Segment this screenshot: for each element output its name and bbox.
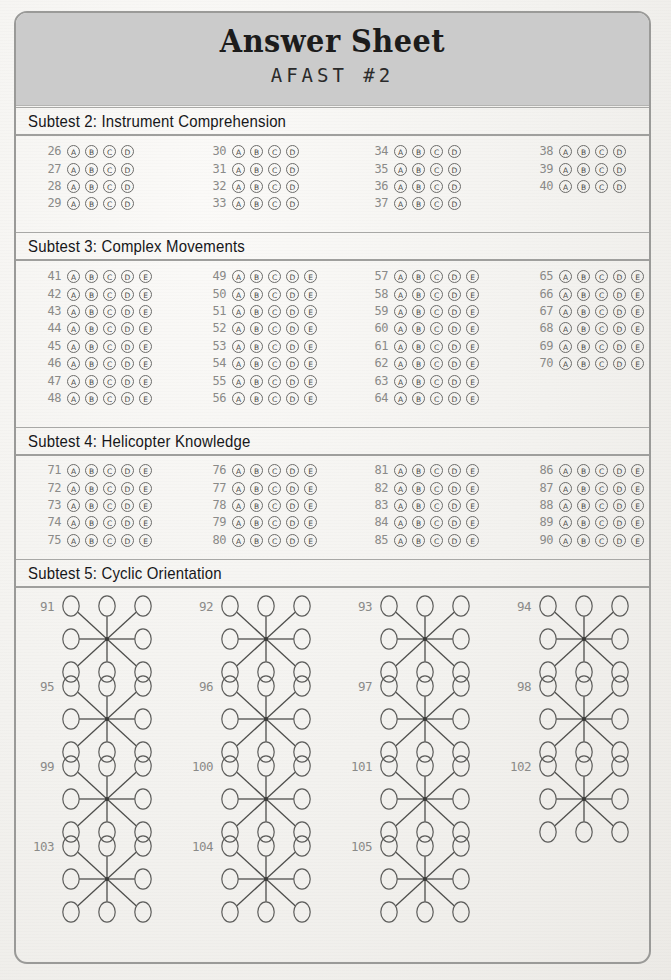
cyclic-bubble-5[interactable] — [294, 869, 310, 889]
answer-bubble-81-C[interactable]: C — [430, 464, 443, 477]
answer-bubble-62-A[interactable]: A — [394, 357, 407, 370]
answer-bubble-26-D[interactable]: D — [121, 145, 134, 158]
cyclic-bubble-1[interactable] — [63, 676, 79, 696]
cyclic-bubble-3[interactable] — [612, 596, 628, 616]
answer-bubble-67-B[interactable]: B — [577, 305, 590, 318]
answer-bubble-41-C[interactable]: C — [103, 270, 116, 283]
answer-bubble-55-A[interactable]: A — [232, 375, 245, 388]
answer-bubble-63-E[interactable]: E — [466, 375, 479, 388]
answer-bubble-83-D[interactable]: D — [448, 499, 461, 512]
cyclic-bubble-4[interactable] — [540, 629, 556, 649]
answer-bubble-65-A[interactable]: A — [559, 270, 572, 283]
answer-bubble-78-D[interactable]: D — [286, 499, 299, 512]
answer-bubble-89-E[interactable]: E — [631, 516, 644, 529]
answer-bubble-80-B[interactable]: B — [250, 534, 263, 547]
cyclic-orientation-diagram[interactable] — [218, 673, 314, 765]
answer-bubble-46-A[interactable]: A — [67, 357, 80, 370]
cyclic-bubble-5[interactable] — [453, 709, 469, 729]
answer-bubble-60-B[interactable]: B — [412, 322, 425, 335]
cyclic-orientation-diagram[interactable] — [218, 753, 314, 845]
answer-bubble-29-B[interactable]: B — [85, 197, 98, 210]
answer-bubble-59-E[interactable]: E — [466, 305, 479, 318]
answer-bubble-74-C[interactable]: C — [103, 516, 116, 529]
answer-bubble-62-B[interactable]: B — [412, 357, 425, 370]
answer-bubble-30-B[interactable]: B — [250, 145, 263, 158]
answer-bubble-48-D[interactable]: D — [121, 392, 134, 405]
answer-bubble-48-A[interactable]: A — [67, 392, 80, 405]
answer-bubble-80-A[interactable]: A — [232, 534, 245, 547]
answer-bubble-80-C[interactable]: C — [268, 534, 281, 547]
cyclic-orientation-diagram[interactable] — [536, 593, 632, 685]
answer-bubble-45-B[interactable]: B — [85, 340, 98, 353]
answer-bubble-68-C[interactable]: C — [595, 322, 608, 335]
answer-bubble-67-C[interactable]: C — [595, 305, 608, 318]
cyclic-orientation-diagram[interactable] — [377, 593, 473, 685]
cyclic-bubble-2[interactable] — [99, 676, 115, 696]
answer-bubble-88-A[interactable]: A — [559, 499, 572, 512]
answer-bubble-90-D[interactable]: D — [613, 534, 626, 547]
cyclic-bubble-7[interactable] — [417, 902, 433, 922]
answer-bubble-88-D[interactable]: D — [613, 499, 626, 512]
answer-bubble-47-E[interactable]: E — [139, 375, 152, 388]
answer-bubble-59-C[interactable]: C — [430, 305, 443, 318]
answer-bubble-77-A[interactable]: A — [232, 482, 245, 495]
answer-bubble-45-A[interactable]: A — [67, 340, 80, 353]
answer-bubble-46-E[interactable]: E — [139, 357, 152, 370]
answer-bubble-86-D[interactable]: D — [613, 464, 626, 477]
answer-bubble-83-A[interactable]: A — [394, 499, 407, 512]
answer-bubble-55-C[interactable]: C — [268, 375, 281, 388]
answer-bubble-30-D[interactable]: D — [286, 145, 299, 158]
answer-bubble-61-C[interactable]: C — [430, 340, 443, 353]
answer-bubble-40-A[interactable]: A — [559, 180, 572, 193]
answer-bubble-29-C[interactable]: C — [103, 197, 116, 210]
cyclic-bubble-4[interactable] — [63, 789, 79, 809]
answer-bubble-26-C[interactable]: C — [103, 145, 116, 158]
answer-bubble-28-A[interactable]: A — [67, 180, 80, 193]
answer-bubble-51-B[interactable]: B — [250, 305, 263, 318]
answer-bubble-77-E[interactable]: E — [304, 482, 317, 495]
cyclic-bubble-2[interactable] — [99, 836, 115, 856]
answer-bubble-38-D[interactable]: D — [613, 145, 626, 158]
answer-bubble-74-D[interactable]: D — [121, 516, 134, 529]
cyclic-orientation-diagram[interactable] — [218, 593, 314, 685]
answer-bubble-34-A[interactable]: A — [394, 145, 407, 158]
answer-bubble-79-A[interactable]: A — [232, 516, 245, 529]
answer-bubble-44-E[interactable]: E — [139, 322, 152, 335]
cyclic-bubble-4[interactable] — [540, 789, 556, 809]
answer-bubble-37-D[interactable]: D — [448, 197, 461, 210]
answer-bubble-40-C[interactable]: C — [595, 180, 608, 193]
answer-bubble-55-B[interactable]: B — [250, 375, 263, 388]
answer-bubble-37-C[interactable]: C — [430, 197, 443, 210]
answer-bubble-35-C[interactable]: C — [430, 163, 443, 176]
cyclic-bubble-1[interactable] — [222, 596, 238, 616]
answer-bubble-69-C[interactable]: C — [595, 340, 608, 353]
cyclic-bubble-6[interactable] — [540, 822, 556, 842]
answer-bubble-75-A[interactable]: A — [67, 534, 80, 547]
answer-bubble-26-B[interactable]: B — [85, 145, 98, 158]
cyclic-orientation-diagram[interactable] — [218, 833, 314, 925]
answer-bubble-62-D[interactable]: D — [448, 357, 461, 370]
answer-bubble-73-E[interactable]: E — [139, 499, 152, 512]
answer-bubble-79-D[interactable]: D — [286, 516, 299, 529]
answer-bubble-56-D[interactable]: D — [286, 392, 299, 405]
answer-bubble-76-B[interactable]: B — [250, 464, 263, 477]
answer-bubble-60-E[interactable]: E — [466, 322, 479, 335]
answer-bubble-76-D[interactable]: D — [286, 464, 299, 477]
answer-bubble-63-B[interactable]: B — [412, 375, 425, 388]
answer-bubble-87-A[interactable]: A — [559, 482, 572, 495]
answer-bubble-76-E[interactable]: E — [304, 464, 317, 477]
cyclic-bubble-1[interactable] — [381, 676, 397, 696]
answer-bubble-57-A[interactable]: A — [394, 270, 407, 283]
answer-bubble-58-B[interactable]: B — [412, 288, 425, 301]
answer-bubble-32-C[interactable]: C — [268, 180, 281, 193]
answer-bubble-57-B[interactable]: B — [412, 270, 425, 283]
answer-bubble-49-B[interactable]: B — [250, 270, 263, 283]
answer-bubble-70-E[interactable]: E — [631, 357, 644, 370]
cyclic-bubble-3[interactable] — [294, 676, 310, 696]
answer-bubble-85-B[interactable]: B — [412, 534, 425, 547]
cyclic-orientation-diagram[interactable] — [377, 753, 473, 845]
answer-bubble-77-B[interactable]: B — [250, 482, 263, 495]
answer-bubble-52-D[interactable]: D — [286, 322, 299, 335]
answer-bubble-44-D[interactable]: D — [121, 322, 134, 335]
answer-bubble-53-C[interactable]: C — [268, 340, 281, 353]
